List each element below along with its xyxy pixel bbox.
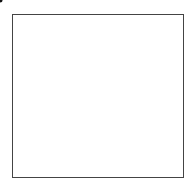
marker-dot [0, 0, 3, 3]
lattice-grid [12, 14, 184, 178]
